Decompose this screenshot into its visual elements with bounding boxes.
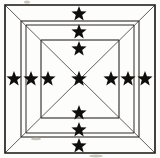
figure-container: Nested squares with star cross Four conc… — [0, 0, 160, 158]
star-icon-right-inner — [103, 71, 118, 85]
star-icon-left-outer — [6, 71, 21, 85]
star-icon-top-outer — [71, 6, 86, 20]
star-icon-left-inner — [40, 71, 55, 85]
star-icon-bottom-middle — [71, 122, 86, 136]
star-icon-right-outer — [137, 71, 152, 85]
nested-squares-star-diagram — [0, 0, 160, 158]
speck-bottom — [89, 155, 103, 158]
speck-left — [31, 138, 41, 140]
star-icon-bottom-outer — [71, 138, 86, 152]
star-icon-top-inner — [71, 41, 86, 55]
star-icon-right-middle — [120, 71, 135, 85]
speck-top — [24, 0, 30, 3]
star-icon-bottom-inner — [71, 105, 86, 119]
paper-specks-group — [24, 0, 103, 157]
star-icon-top-middle — [71, 24, 86, 38]
